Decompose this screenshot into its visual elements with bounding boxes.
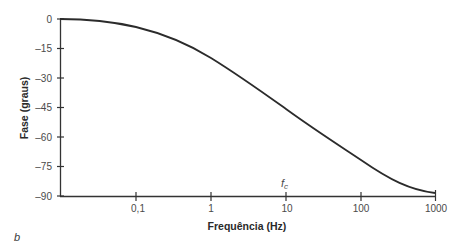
x-axis-title: Frequência (Hz) bbox=[208, 220, 287, 232]
svg-text:10: 10 bbox=[281, 203, 293, 214]
y-tick-labels: 0 –15 –30 –45 –60 –75 –90 bbox=[35, 14, 52, 202]
panel-label: b bbox=[14, 231, 20, 243]
y-axis-title: Fase (graus) bbox=[18, 77, 30, 139]
svg-text:1: 1 bbox=[208, 203, 214, 214]
x-tick-labels: 0,1 1 10 100 1000 bbox=[131, 203, 448, 214]
phase-curve bbox=[60, 19, 435, 193]
svg-text:–90: –90 bbox=[35, 191, 52, 202]
svg-text:0: 0 bbox=[46, 14, 52, 25]
svg-text:–15: –15 bbox=[35, 43, 52, 54]
svg-text:–30: –30 bbox=[35, 73, 52, 84]
phase-chart: 0 –15 –30 –45 –60 –75 –90 0,1 1 10 100 1… bbox=[0, 0, 457, 244]
fc-annotation: fc bbox=[281, 177, 288, 191]
svg-text:100: 100 bbox=[353, 203, 370, 214]
svg-text:1000: 1000 bbox=[425, 203, 448, 214]
svg-text:–60: –60 bbox=[35, 132, 52, 143]
svg-text:0,1: 0,1 bbox=[131, 203, 145, 214]
svg-text:–45: –45 bbox=[35, 102, 52, 113]
x-ticks bbox=[136, 190, 436, 201]
svg-text:–75: –75 bbox=[35, 161, 52, 172]
